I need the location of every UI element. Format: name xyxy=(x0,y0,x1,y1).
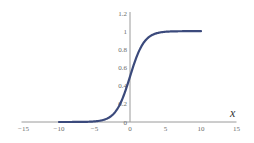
x-tick-label: −10 xyxy=(54,125,65,133)
x-tick-label: 5 xyxy=(164,125,168,133)
x-tick-label: 15 xyxy=(233,125,241,133)
x-axis-label: x xyxy=(229,106,236,120)
x-tick-label: 0 xyxy=(128,125,132,133)
x-tick-label: −15 xyxy=(18,125,29,133)
y-tick-label: 1 xyxy=(124,28,128,36)
sigmoid-chart: −15−10−5051015 00.20.40.60.811.2 x xyxy=(0,0,254,143)
y-tick-label: 0 xyxy=(124,119,128,127)
x-tick-label: 10 xyxy=(198,125,206,133)
axes xyxy=(22,12,237,122)
y-tick-labels: 00.20.40.60.811.2 xyxy=(118,10,127,127)
y-tick-label: 1.2 xyxy=(118,10,127,18)
x-tick-label: −5 xyxy=(91,125,99,133)
y-tick-label: 0.8 xyxy=(118,46,127,54)
x-tick-labels: −15−10−5051015 xyxy=(18,125,240,133)
y-tick-label: 0.6 xyxy=(118,64,127,72)
